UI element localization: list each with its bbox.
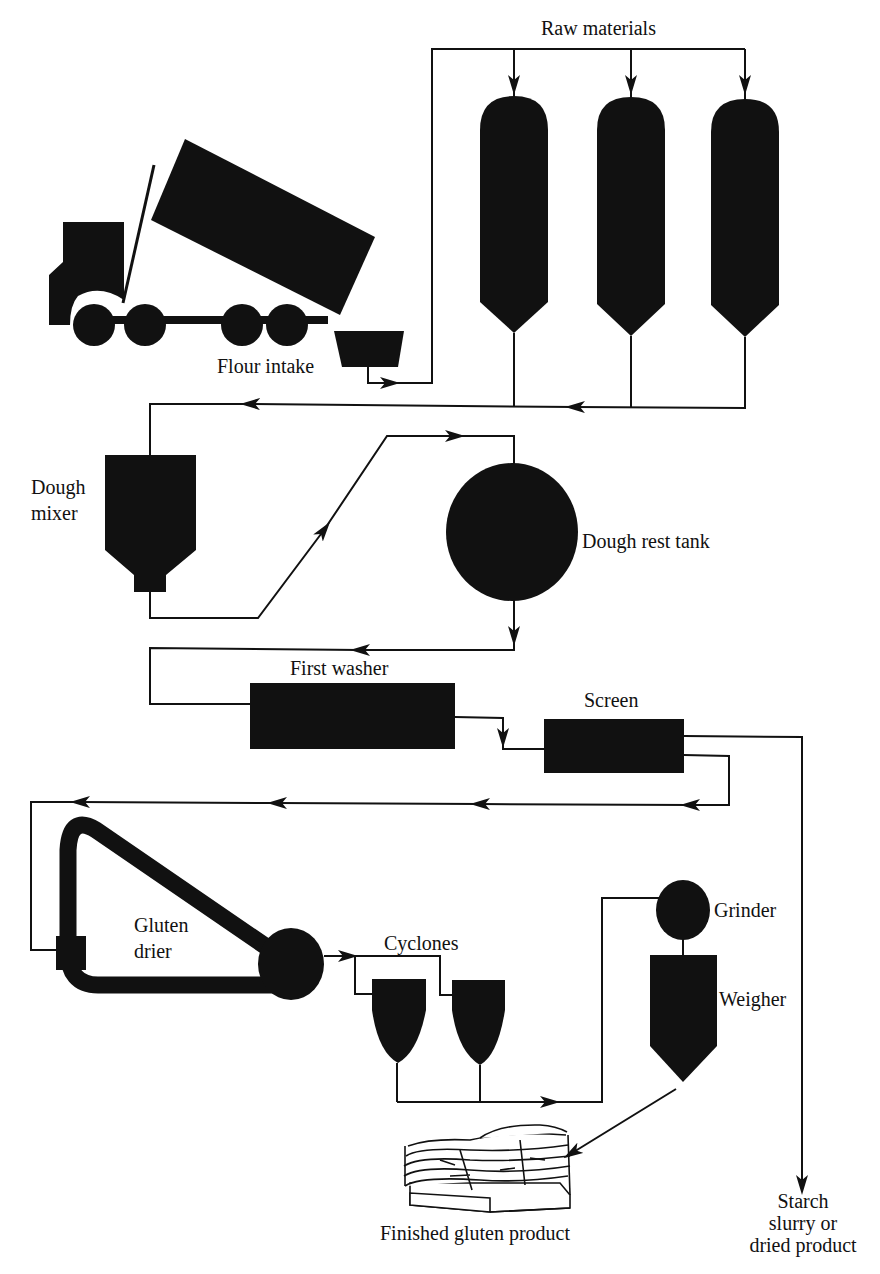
label-gluten-drier-line1: Gluten (134, 912, 188, 938)
dough-mixer (105, 455, 196, 592)
flow-line-weigher-to-pallet (572, 1089, 676, 1153)
first-washer (250, 683, 455, 749)
label-flour-intake: Flour intake (217, 355, 314, 378)
label-starch-line3: dried product (738, 1234, 868, 1256)
flour-intake-hopper (334, 331, 404, 367)
label-dough-mixer-line1: Dough (31, 474, 85, 500)
pallet-of-bags-icon (404, 1125, 570, 1212)
label-screen: Screen (584, 689, 638, 712)
cyclones (372, 979, 505, 1065)
screen (544, 719, 684, 773)
label-finished-gluten-product: Finished gluten product (380, 1222, 570, 1245)
flow-line-flour-intake (368, 49, 745, 383)
process-flow-diagram (0, 0, 880, 1274)
label-gluten-drier-line2: drier (134, 938, 188, 964)
raw-material-silos (480, 96, 779, 337)
label-starch-line2: slurry or (738, 1212, 868, 1234)
cyclone-2 (452, 980, 505, 1065)
silo-3 (711, 99, 779, 337)
weigher (650, 955, 717, 1082)
grinder (656, 880, 710, 940)
label-dough-mixer: Dough mixer (31, 474, 85, 526)
label-grinder: Grinder (714, 899, 776, 922)
silo-2 (597, 97, 665, 336)
label-cyclones: Cyclones (384, 932, 458, 955)
flow-line-washer-to-screen (455, 717, 544, 749)
silo-1 (480, 96, 548, 333)
label-dough-mixer-line2: mixer (31, 500, 85, 526)
label-first-washer: First washer (290, 657, 388, 680)
dough-rest-tank (446, 463, 578, 601)
cyclone-1 (372, 979, 426, 1063)
label-dough-rest-tank: Dough rest tank (582, 530, 710, 553)
label-raw-materials: Raw materials (541, 17, 656, 40)
gluten-drier (56, 825, 324, 1000)
label-starch-line1: Starch (738, 1190, 868, 1212)
dump-truck-icon (49, 139, 375, 346)
label-weigher: Weigher (719, 988, 786, 1011)
label-gluten-drier: Gluten drier (134, 912, 188, 964)
label-starch-output: Starch slurry or dried product (738, 1190, 868, 1256)
